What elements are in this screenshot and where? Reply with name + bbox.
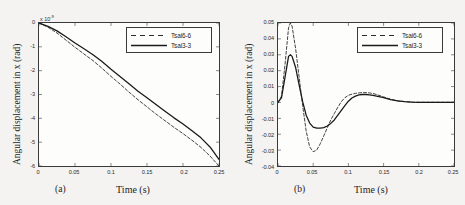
legend-dashed-sample-b: [361, 32, 399, 39]
legend-a: Tsai6-6 Tsai3-3: [126, 27, 212, 53]
y-tick-b-3: 0.02: [256, 67, 274, 73]
y-tick-a-6: -6: [24, 163, 35, 169]
y-tick-b-1: 0.04: [256, 35, 274, 41]
figure-container: x 10-9 0 -1 -2 -3 -4 -5 -6 0 0.05 0.1 0.…: [0, 0, 465, 205]
x-tick-a-3: 0.15: [142, 169, 153, 175]
chart-panel-b: 0.05 0.04 0.03 0.02 0.01 0 -0.01 -0.02 -…: [232, 0, 464, 205]
y-tick-a-1: -1: [24, 43, 35, 49]
x-axis-label-a: Time (s): [116, 184, 150, 195]
x-tick-a-0: 0: [36, 169, 39, 175]
y-tick-b-8: -0.03: [256, 148, 274, 154]
legend-item-tsai6-6: Tsai6-6: [130, 30, 208, 40]
x-tick-b-4: 0.2: [415, 169, 422, 175]
y-tick-a-0: 0: [24, 19, 35, 25]
legend-label-tsai3-3-a: Tsai3-3: [171, 42, 191, 49]
legend-label-tsai6-6-a: Tsai6-6: [171, 32, 191, 39]
x-tick-a-1: 0.05: [69, 169, 80, 175]
legend-solid-sample-a: [130, 42, 168, 49]
y-tick-b-6: -0.01: [256, 116, 274, 122]
y-tick-b-7: -0.02: [256, 132, 274, 138]
legend-b: Tsai6-6 Tsai3-3: [357, 27, 443, 53]
x-tick-b-1: 0.05: [307, 169, 318, 175]
y-tick-b-0: 0.05: [256, 19, 274, 25]
legend-label-tsai3-3-b: Tsai3-3: [402, 42, 422, 49]
y-tick-b-2: 0.03: [256, 51, 274, 57]
x-tick-b-2: 0.1: [344, 169, 351, 175]
y-tick-b-4: 0.01: [256, 83, 274, 89]
panel-caption-b: (b): [294, 184, 305, 194]
x-axis-label-b: Time (s): [354, 184, 388, 195]
y-tick-a-4: -4: [24, 115, 35, 121]
legend-item-tsai3-3: Tsai3-3: [130, 40, 208, 50]
y-tick-b-5: 0: [256, 100, 274, 106]
x-tick-a-2: 0.1: [107, 169, 114, 175]
x-tick-b-3: 0.15: [379, 169, 390, 175]
y-tick-a-5: -5: [24, 139, 35, 145]
y-tick-b-9: -0.04: [256, 164, 274, 170]
y-tick-a-2: -2: [24, 67, 35, 73]
legend-dashed-sample-a: [130, 32, 168, 39]
legend-item-tsai6-6: Tsai6-6: [361, 30, 439, 40]
legend-label-tsai6-6-b: Tsai6-6: [402, 32, 422, 39]
x-tick-a-4: 0.2: [180, 169, 187, 175]
x-tick-b-5: 0.25: [448, 169, 459, 175]
y-axis-label-a: Angular displacement in x (rad): [12, 44, 22, 165]
y-exponent-label-a: x 10-9: [40, 14, 54, 22]
legend-solid-sample-b: [361, 42, 399, 49]
y-axis-label-b: Angular displacement in x (rad): [244, 44, 254, 165]
panel-caption-a: (a): [55, 184, 66, 194]
legend-item-tsai3-3: Tsai3-3: [361, 40, 439, 50]
y-tick-a-3: -3: [24, 91, 35, 97]
x-tick-a-5: 0.25: [214, 169, 225, 175]
chart-panel-a: x 10-9 0 -1 -2 -3 -4 -5 -6 0 0.05 0.1 0.…: [0, 0, 232, 205]
x-tick-b-0: 0: [275, 169, 278, 175]
